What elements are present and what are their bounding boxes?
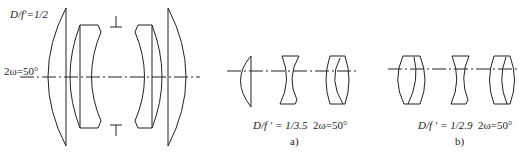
lens-a-2 [280, 56, 299, 104]
lens-b-2 [451, 56, 469, 104]
main-aperture-label: D/f′=1/2 [10, 9, 48, 20]
lens-diagram [0, 0, 522, 155]
panel-b-aperture-label: D/f ′ = 1/2.9 2ω=50° [418, 120, 512, 131]
panel-b-field: 2ω=50° [478, 119, 512, 131]
main-field-label: 2ω=50° [4, 66, 38, 77]
panel-a-aperture-label: D/f ′ = 1/3.5 2ω=50° [253, 120, 347, 131]
panel-b-aperture: D/f ′ = 1/2.9 [418, 119, 472, 131]
panel-a-caption: a) [290, 136, 299, 147]
lens-a-1 [241, 56, 252, 107]
panel-a-aperture: D/f ′ = 1/3.5 [253, 119, 307, 131]
panel-a-field: 2ω=50° [313, 119, 347, 131]
panel-b-caption: b) [455, 136, 464, 147]
